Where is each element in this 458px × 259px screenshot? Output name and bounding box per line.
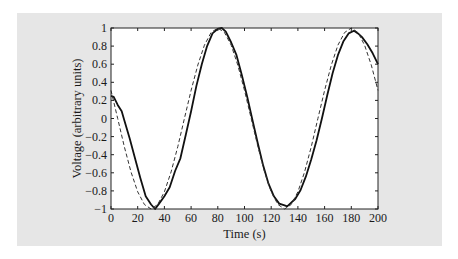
y-tick-label: −0.8 [85,184,107,198]
x-tick-label: 80 [212,211,224,225]
y-tick-label: 0.2 [92,93,107,107]
y-tick-label: 0.6 [92,57,107,71]
x-tick-label: 200 [369,211,387,225]
y-axis-title: Voltage (arbitrary units) [70,59,84,179]
x-tick-label: 180 [342,211,360,225]
x-tick-label: 100 [236,211,254,225]
y-tick-label: 0.8 [92,39,107,53]
x-tick-label: 160 [316,211,334,225]
line-chart: 020406080100120140160180200 −1−0.8−0.6−0… [0,0,458,259]
x-tick-label: 120 [262,211,280,225]
x-tick-label: 60 [185,211,197,225]
x-tick-label: 0 [108,211,114,225]
y-tick-label: 0.4 [92,75,107,89]
x-tick-label: 40 [158,211,170,225]
y-tick-label: 1 [101,21,107,35]
y-tick-label: −1 [94,202,107,216]
x-tick-label: 20 [132,211,144,225]
x-axis-title: Time (s) [223,227,265,241]
x-tick-label: 140 [289,211,307,225]
y-tick-label: −0.4 [85,148,107,162]
y-tick-label: 0 [101,112,107,126]
y-tick-label: −0.6 [85,166,107,180]
y-tick-label: −0.2 [85,130,107,144]
